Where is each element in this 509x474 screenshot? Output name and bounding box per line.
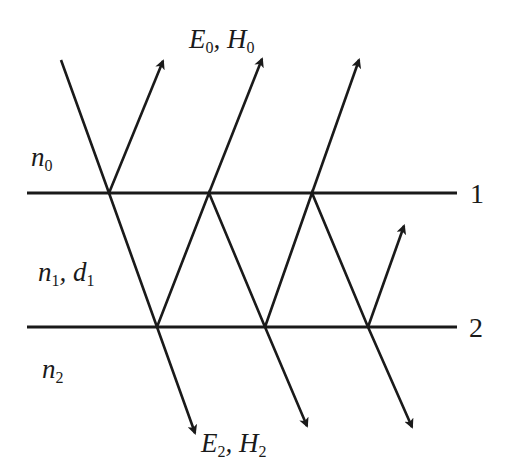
medium-label-n2: n2 [42,356,64,383]
reflected-field-label: E0, H0 [189,26,255,53]
incident-ray [61,60,195,433]
medium-label-n1-d1: n1, d1 [38,259,95,286]
interface-label-2: 2 [469,314,483,342]
internal-ray-2 [265,193,412,427]
reflected-ray-3 [312,60,359,193]
medium-symbol: n [38,257,52,287]
thickness-symbol: d [73,257,87,287]
h-field-symbol: H [227,24,247,54]
separator: , [60,257,74,287]
separator: , [214,24,228,54]
e-field-subscript: 0 [206,39,214,56]
interface-label-1: 1 [470,180,484,208]
rays [61,59,412,433]
medium-subscript: 0 [45,157,53,174]
e-field-symbol: E [201,428,218,458]
h-field-symbol: H [239,428,259,458]
medium-symbol: n [42,354,56,384]
medium-symbol: n [31,142,45,172]
h-field-subscript: 2 [259,443,267,460]
reflected-ray-1 [109,61,163,193]
medium-subscript: 1 [52,272,60,289]
transmitted-field-label: E2, H2 [201,430,267,457]
reflected-ray-2 [209,59,262,193]
e-field-symbol: E [189,24,206,54]
h-field-subscript: 0 [247,39,255,56]
thickness-subscript: 1 [87,272,95,289]
separator: , [226,428,240,458]
medium-label-n0: n0 [31,144,53,171]
medium-subscript: 2 [56,369,64,386]
internal-ray-3 [368,226,404,327]
e-field-subscript: 2 [218,443,226,460]
thin-film-diagram [0,0,509,474]
